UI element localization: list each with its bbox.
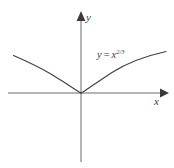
y-axis-label: y [86,12,91,23]
x-axis-label: x [154,96,159,107]
equation-lhs: y [97,49,102,60]
y-axis-arrowhead [77,11,86,21]
curve-equation-label: y=x2/3 [97,50,125,61]
math-figure: y x y=x2/3 [0,0,174,168]
equation-equals-sign: = [104,49,110,60]
graph-canvas [0,0,174,168]
x-axis-arrowhead [160,89,169,98]
curve-left-branch [14,56,82,94]
equation-exponent: 2/3 [116,48,124,55]
